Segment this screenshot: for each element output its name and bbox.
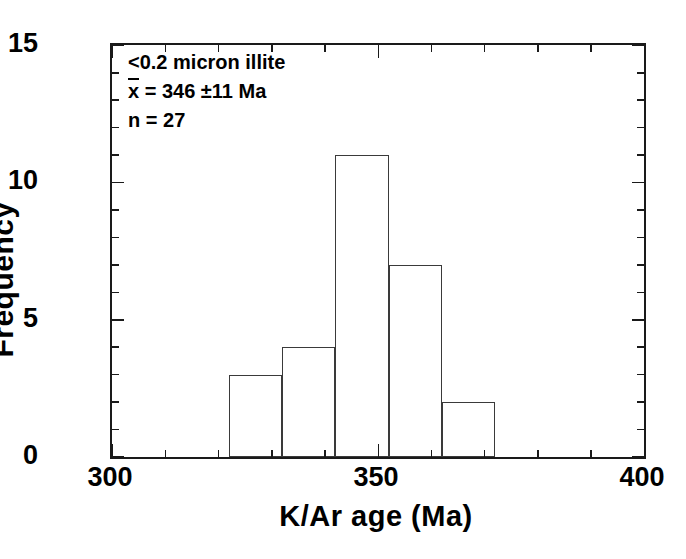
annotation-sample-line: <0.2 micron illite	[128, 48, 285, 77]
x-tick-top-minor-390	[590, 45, 592, 52]
x-tick-major-300	[112, 444, 114, 457]
x-tick-label-300: 300	[87, 462, 132, 493]
y-tick-right-minor-1	[637, 429, 644, 431]
histogram-bar-352-362	[389, 265, 442, 457]
y-tick-minor-1	[112, 429, 119, 431]
x-tick-minor-390	[590, 450, 592, 457]
x-tick-top-major-400	[644, 45, 646, 58]
y-tick-label-10: 10	[8, 165, 38, 196]
y-tick-right-minor-2	[637, 401, 644, 403]
y-tick-label-5: 5	[23, 302, 38, 333]
x-tick-minor-320	[218, 450, 220, 457]
y-tick-right-minor-3	[637, 374, 644, 376]
x-tick-minor-340	[324, 450, 326, 457]
x-axis-title: K/Ar age (Ma)	[110, 500, 642, 533]
y-tick-right-major-0	[632, 456, 644, 458]
x-tick-major-350	[378, 444, 380, 457]
y-tick-minor-8	[112, 237, 119, 239]
y-tick-right-minor-7	[637, 264, 644, 266]
y-tick-minor-2	[112, 401, 119, 403]
y-tick-right-minor-11	[637, 154, 644, 156]
x-tick-minor-370	[484, 450, 486, 457]
y-tick-minor-14	[112, 72, 119, 74]
histogram-bar-332-342	[282, 347, 335, 457]
y-tick-right-major-10	[632, 182, 644, 184]
x-tick-minor-330	[271, 450, 273, 457]
y-tick-right-minor-8	[637, 237, 644, 239]
annotation-mean-value: = 346 ±11 Ma	[139, 80, 266, 102]
x-tick-major-400	[644, 444, 646, 457]
y-tick-major-10	[112, 182, 124, 184]
x-tick-top-minor-380	[537, 45, 539, 52]
x-tick-top-minor-370	[484, 45, 486, 52]
x-tick-minor-310	[165, 450, 167, 457]
chart-annotation: <0.2 micron illite x = 346 ±11 Ma n = 27	[128, 48, 285, 135]
y-tick-right-minor-12	[637, 127, 644, 129]
x-tick-label-400: 400	[619, 462, 664, 493]
y-tick-right-minor-14	[637, 72, 644, 74]
x-tick-minor-360	[431, 450, 433, 457]
y-tick-minor-4	[112, 346, 119, 348]
histogram-bar-342-352	[335, 155, 388, 457]
y-tick-right-major-5	[632, 319, 644, 321]
x-tick-minor-380	[537, 450, 539, 457]
y-tick-minor-6	[112, 292, 119, 294]
x-tick-top-minor-340	[324, 45, 326, 52]
y-tick-minor-13	[112, 99, 119, 101]
annotation-mean-line: x = 346 ±11 Ma	[128, 77, 285, 106]
y-tick-right-minor-13	[637, 99, 644, 101]
y-tick-minor-7	[112, 264, 119, 266]
y-tick-right-minor-9	[637, 209, 644, 211]
y-tick-major-15	[112, 45, 124, 47]
y-tick-right-minor-6	[637, 292, 644, 294]
y-tick-minor-12	[112, 127, 119, 129]
x-tick-top-minor-360	[431, 45, 433, 52]
y-tick-right-major-15	[632, 45, 644, 47]
x-tick-top-major-350	[378, 45, 380, 58]
x-tick-label-350: 350	[353, 462, 398, 493]
y-tick-minor-11	[112, 154, 119, 156]
y-tick-label-0: 0	[23, 440, 38, 471]
y-tick-right-minor-4	[637, 346, 644, 348]
y-tick-minor-9	[112, 209, 119, 211]
histogram-figure: Frequency 15 10 5 0 300 350 400	[0, 0, 686, 559]
x-tick-top-major-300	[112, 45, 114, 58]
histogram-bar-322-332	[229, 375, 282, 457]
y-tick-minor-3	[112, 374, 119, 376]
annotation-count-line: n = 27	[128, 106, 285, 135]
histogram-bar-362-372	[442, 402, 495, 457]
annotation-mean-xbar: x	[128, 78, 139, 101]
y-tick-major-5	[112, 319, 124, 321]
y-tick-major-0	[112, 456, 124, 458]
y-tick-label-15: 15	[8, 28, 38, 59]
y-axis-title: Frequency	[0, 0, 46, 559]
